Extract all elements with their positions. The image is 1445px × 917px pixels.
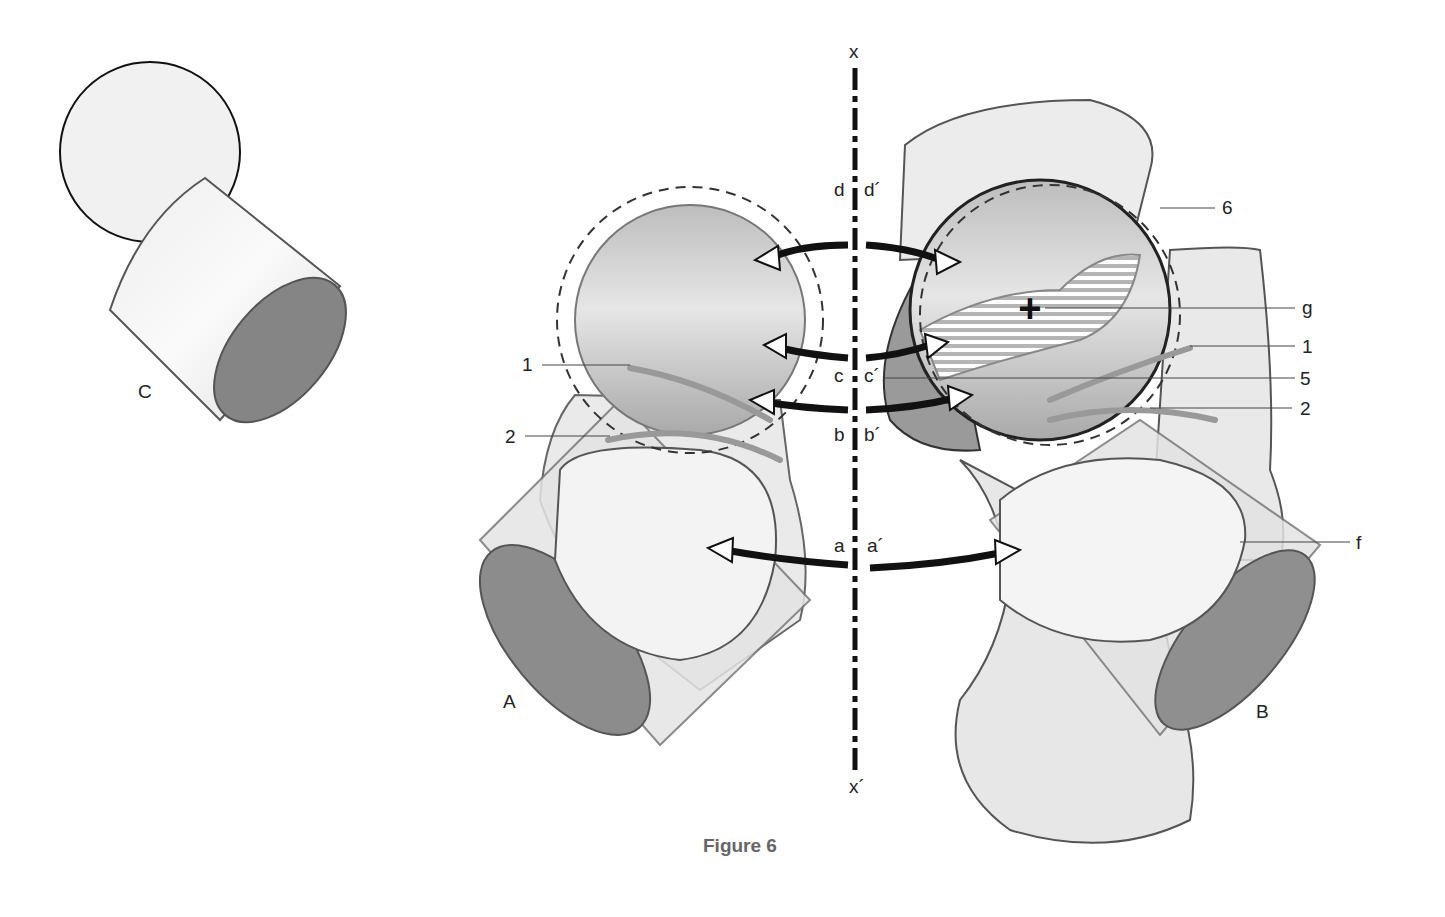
figure-caption: Figure 6 <box>703 835 777 856</box>
view-label-c: C <box>138 381 152 402</box>
figure-canvas: + x x´ d d´ c c´ b b´ a a´ 1 2 6 g 1 <box>0 0 1445 917</box>
view-a-diagram <box>449 187 823 763</box>
label-d: d <box>834 179 845 200</box>
label-b-prime: b´ <box>864 424 881 445</box>
view-c-diagram <box>60 62 371 446</box>
view-b-diagram: + <box>884 100 1343 843</box>
view-label-b: B <box>1256 701 1269 722</box>
callout-1-left: 1 <box>522 354 533 375</box>
callout-2-right: 2 <box>1300 398 1311 419</box>
callout-f: f <box>1356 532 1362 553</box>
label-a-prime: a´ <box>867 535 884 556</box>
label-c: c <box>834 365 844 386</box>
axis-label-top: x <box>849 41 859 62</box>
label-d-prime: d´ <box>864 179 881 200</box>
label-c-prime: c´ <box>864 365 880 386</box>
plus-icon: + <box>1018 286 1041 330</box>
callout-6: 6 <box>1222 197 1233 218</box>
view-label-a: A <box>503 691 516 712</box>
callout-g: g <box>1302 297 1313 318</box>
axis-label-bottom: x´ <box>849 776 865 797</box>
label-b: b <box>834 424 845 445</box>
callout-2-left: 2 <box>505 426 516 447</box>
callout-5: 5 <box>1300 368 1311 389</box>
callout-1-right: 1 <box>1302 336 1313 357</box>
arrow-d-left <box>770 245 848 258</box>
label-a: a <box>834 535 845 556</box>
arrow-a-right <box>870 553 1000 568</box>
